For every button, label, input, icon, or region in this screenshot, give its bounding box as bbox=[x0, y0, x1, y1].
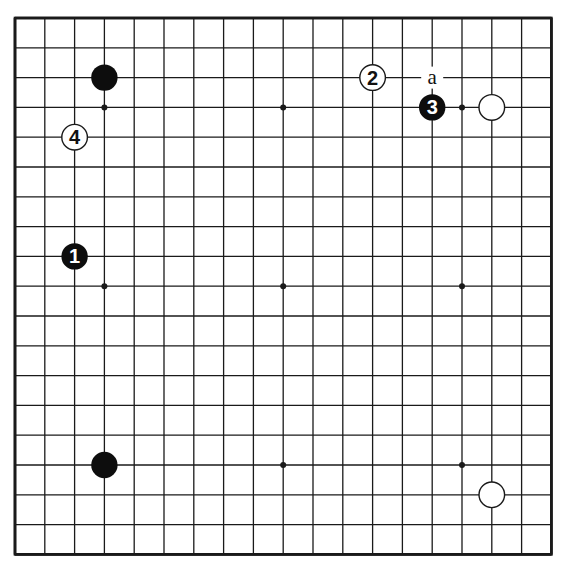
black-stone-icon bbox=[91, 452, 117, 478]
star-point bbox=[459, 462, 465, 468]
move-number-label: 3 bbox=[427, 96, 438, 118]
black-stone bbox=[91, 64, 117, 90]
star-point bbox=[101, 104, 107, 110]
star-point bbox=[101, 283, 107, 289]
star-point bbox=[459, 283, 465, 289]
move-number-label: 4 bbox=[69, 126, 81, 148]
point-mark-label: a bbox=[428, 65, 438, 89]
white-stone bbox=[479, 482, 505, 508]
move-number-label: 1 bbox=[69, 245, 80, 267]
black-stone-move-3: 3 bbox=[419, 94, 445, 120]
white-stone-icon bbox=[479, 482, 505, 508]
black-stone-move-1: 1 bbox=[61, 243, 87, 269]
star-point bbox=[280, 104, 286, 110]
star-point bbox=[459, 104, 465, 110]
star-point bbox=[280, 283, 286, 289]
white-stone-icon bbox=[479, 95, 505, 121]
white-stone bbox=[479, 95, 505, 121]
white-stone-move-2: 2 bbox=[360, 65, 386, 91]
go-board-diagram: a 1234 bbox=[0, 0, 564, 579]
black-stone-icon bbox=[91, 64, 117, 90]
move-number-label: 2 bbox=[367, 67, 378, 89]
board-marks: a bbox=[421, 65, 443, 89]
black-stone bbox=[91, 452, 117, 478]
star-point bbox=[280, 462, 286, 468]
white-stone-move-4: 4 bbox=[62, 124, 88, 150]
